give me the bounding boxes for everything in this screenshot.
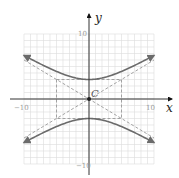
y-axis-label: y [94, 11, 102, 25]
x-max-tick-label: 10 [146, 104, 155, 112]
y-min-tick-label: −10 [76, 162, 91, 170]
center-label: C [91, 88, 99, 99]
x-axis-label: x [166, 101, 173, 115]
x-min-tick-label: −10 [14, 104, 29, 112]
y-max-tick-label: 10 [78, 30, 87, 38]
hyperbola-chart: −10 10 10 −10 x y C [0, 0, 179, 178]
